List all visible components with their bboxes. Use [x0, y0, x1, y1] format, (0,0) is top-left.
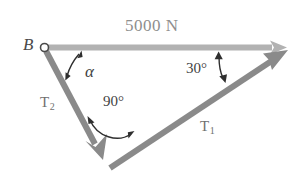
tension-2-label-subscript: 2 — [50, 101, 55, 112]
point-b-marker — [41, 44, 49, 52]
ninety-degree-label: 90° — [103, 94, 124, 109]
resultant-force-label: 5000 N — [125, 17, 179, 34]
resultant-vector-5000n — [48, 41, 287, 55]
alpha-angle-arc-path — [67, 54, 79, 76]
tension-1-label-subscript: 1 — [210, 125, 215, 136]
ninety-degree-arrowhead-right — [128, 131, 135, 139]
thirty-degree-arc-path — [219, 56, 223, 78]
thirty-degree-arrowhead-top — [215, 52, 223, 60]
ninety-degree-arc — [90, 120, 131, 138]
tension-2-vector — [46, 51, 107, 160]
tension-2-label-base: T — [40, 94, 49, 110]
ninety-degree-arrowhead-left — [88, 116, 95, 124]
thirty-degree-arrowhead-bottom — [219, 74, 227, 83]
tension-1-label: T1 — [200, 119, 214, 134]
thirty-degree-arc — [219, 56, 223, 78]
force-diagram-figure: B 5000 N α 90° 30° T2 T1 — [0, 0, 300, 171]
alpha-angle-arc — [67, 54, 79, 76]
tension-2-label: T2 — [40, 95, 54, 110]
point-b-label: B — [23, 36, 33, 53]
alpha-angle-label: α — [85, 63, 94, 80]
thirty-degree-label: 30° — [186, 61, 207, 76]
ninety-degree-arc-path — [90, 120, 131, 138]
tension-1-label-base: T — [200, 118, 209, 134]
tension-1-vector-shaft — [110, 60, 273, 168]
